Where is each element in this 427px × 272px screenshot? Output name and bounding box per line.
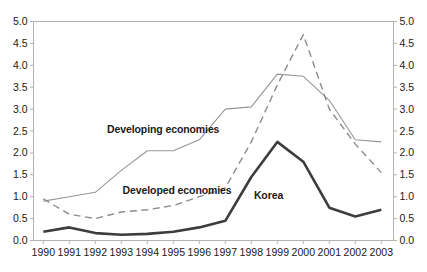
series-line-developing-economies xyxy=(43,74,381,201)
y-tick-label-left: 5.0 xyxy=(13,15,28,27)
x-tick-label: 2001 xyxy=(318,246,342,258)
y-tick-label-left: 3.5 xyxy=(13,81,28,93)
line-chart: 0.00.00.50.51.01.01.51.52.02.02.52.53.03… xyxy=(0,0,427,272)
x-tick-label: 2000 xyxy=(292,246,316,258)
y-tick-label-left: 2.0 xyxy=(13,146,28,158)
x-tick-label: 1991 xyxy=(58,246,82,258)
y-tick-label-left: 1.5 xyxy=(13,168,28,180)
chart-page: 0.00.00.50.51.01.01.51.52.02.02.52.53.03… xyxy=(0,0,427,272)
x-tick-label: 1993 xyxy=(110,246,134,258)
x-tick-label: 1999 xyxy=(266,246,290,258)
y-tick-label-left: 4.0 xyxy=(13,59,28,71)
y-tick-label-right: 0.5 xyxy=(400,212,415,224)
x-tick-label: 1994 xyxy=(136,246,160,258)
y-tick-label-right: 2.0 xyxy=(400,146,415,158)
x-tick-label: 1992 xyxy=(84,246,108,258)
series-label-developed-economies: Developed economies xyxy=(123,184,232,196)
y-tick-label-left: 3.0 xyxy=(13,103,28,115)
y-tick-label-right: 3.0 xyxy=(400,103,415,115)
y-tick-label-left: 1.0 xyxy=(13,190,28,202)
x-tick-label: 1995 xyxy=(162,246,186,258)
y-tick-label-left: 0.5 xyxy=(13,212,28,224)
x-tick-label: 1998 xyxy=(240,246,264,258)
x-tick-label: 2003 xyxy=(370,246,394,258)
x-tick-label: 1996 xyxy=(188,246,212,258)
y-tick-label-right: 4.0 xyxy=(400,59,415,71)
y-tick-label-right: 4.5 xyxy=(400,37,415,49)
x-tick-label: 1997 xyxy=(214,246,238,258)
y-tick-label-right: 1.5 xyxy=(400,168,415,180)
x-tick-label: 1990 xyxy=(32,246,56,258)
y-tick-label-left: 2.5 xyxy=(13,125,28,137)
y-tick-label-left: 4.5 xyxy=(13,37,28,49)
y-tick-label-right: 1.0 xyxy=(400,190,415,202)
y-tick-label-right: 5.0 xyxy=(400,15,415,27)
y-tick-label-left: 0.0 xyxy=(13,234,28,246)
y-tick-label-right: 2.5 xyxy=(400,125,415,137)
x-tick-label: 2002 xyxy=(344,246,368,258)
series-label-korea: Korea xyxy=(254,189,284,201)
series-label-developing-economies: Developing economies xyxy=(107,123,220,135)
y-tick-label-right: 3.5 xyxy=(400,81,415,93)
y-tick-label-right: 0.0 xyxy=(400,234,415,246)
